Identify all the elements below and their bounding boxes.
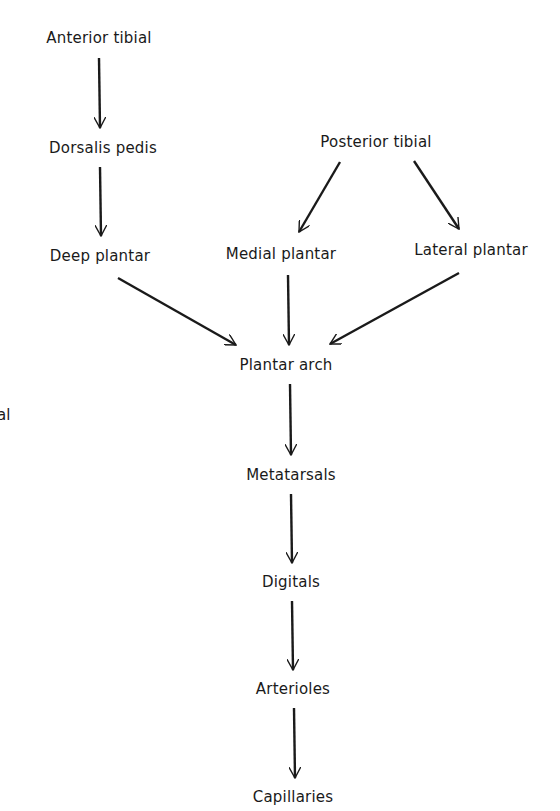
node-plantar-arch: Plantar arch (239, 356, 332, 374)
node-arterioles: Arterioles (256, 680, 330, 698)
arrow-metatarsals-to-digitals (291, 494, 292, 563)
node-metatarsals: Metatarsals (246, 466, 336, 484)
node-capillaries: Capillaries (253, 788, 333, 806)
node-posterior-tibial: Posterior tibial (320, 133, 431, 151)
arrow-digitals-to-arterioles (292, 601, 293, 670)
arrow-deep-to-arch (118, 278, 236, 345)
arrow-medial-to-arch (288, 275, 289, 345)
node-medial-plantar: Medial plantar (226, 245, 336, 263)
arrow-anterior-to-dorsalis (99, 58, 100, 128)
node-digitals: Digitals (262, 573, 320, 591)
arrow-posterior-to-medial (299, 162, 340, 232)
arrow-posterior-to-lateral (414, 161, 459, 229)
cropped-text-fragment: al (0, 406, 10, 424)
node-deep-plantar: Deep plantar (50, 247, 150, 265)
arrow-dorsalis-to-deep (100, 167, 101, 236)
arrow-arch-to-metatarsals (290, 384, 291, 455)
arrow-lateral-to-arch (330, 273, 459, 344)
node-lateral-plantar: Lateral plantar (414, 241, 528, 259)
arrow-arterioles-to-capillaries (294, 708, 295, 778)
node-dorsalis-pedis: Dorsalis pedis (49, 139, 157, 157)
node-anterior-tibial: Anterior tibial (46, 29, 151, 47)
